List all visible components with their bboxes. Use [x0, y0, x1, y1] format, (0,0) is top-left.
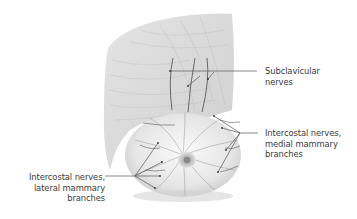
label-line: Intercostal nerves, — [0, 172, 105, 183]
nipple — [184, 157, 190, 163]
label-line: Subclavicular — [265, 66, 320, 77]
label-medial-mammary-branches: Intercostal nerves, medial mammary branc… — [265, 128, 341, 160]
label-line: branches — [265, 149, 341, 160]
label-lateral-mammary-branches: Intercostal nerves, lateral mammary bran… — [0, 172, 105, 204]
label-line: nerves — [265, 77, 320, 88]
breast-region — [125, 113, 241, 202]
label-line: medial mammary — [265, 139, 341, 150]
label-line: lateral mammary — [0, 183, 105, 194]
label-line: Intercostal nerves, — [265, 128, 341, 139]
label-subclavicular-nerves: Subclavicular nerves — [265, 66, 320, 87]
label-line: branches — [0, 193, 105, 204]
